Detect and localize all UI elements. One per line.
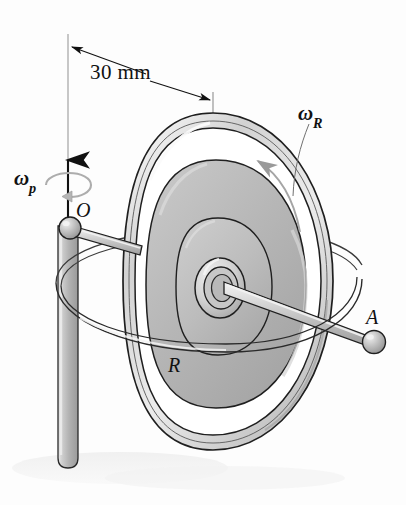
figure-canvas: 30 mm ωp ωR O A R xyxy=(0,0,406,505)
vertical-post xyxy=(58,226,78,468)
point-a-label: A xyxy=(366,307,378,327)
disk-radius-label: R xyxy=(168,355,180,375)
precession-omega-label: ωp xyxy=(14,168,36,192)
omega-r-symbol: ω xyxy=(298,101,313,125)
point-o-label: O xyxy=(76,200,90,220)
spin-omega-label: ωR xyxy=(298,103,323,127)
end-ball-A xyxy=(363,331,386,354)
omega-p-symbol: ω xyxy=(14,166,29,190)
dimension-label-30mm: 30 mm xyxy=(90,62,151,83)
gyroscope-diagram xyxy=(0,0,406,505)
omega-r-subscript: R xyxy=(313,115,323,131)
omega-p-subscript: p xyxy=(29,180,36,196)
